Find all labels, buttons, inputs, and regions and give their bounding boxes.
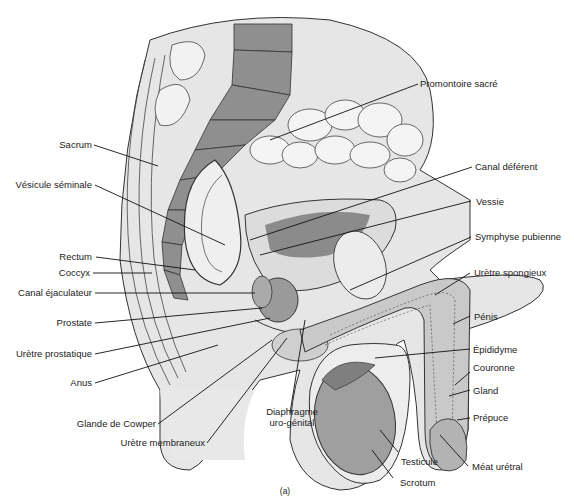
label-uretre-prostatique: Urètre prostatique	[16, 348, 92, 359]
label-sacrum: Sacrum	[59, 139, 92, 150]
anatomy-figure: Sacrum Vésicule séminale Rectum Coccyx C…	[0, 0, 574, 504]
label-diaphragme-uro-genital: Diaphragme uro-génital	[262, 406, 322, 428]
label-canal-ejaculateur: Canal éjaculateur	[18, 287, 92, 298]
label-diaphragme-line2: uro-génital	[262, 417, 322, 428]
label-diaphragme-line1: Diaphragme	[262, 406, 322, 417]
label-penis: Pénis	[474, 311, 498, 322]
label-coccyx: Coccyx	[59, 267, 90, 278]
label-meat-uretral: Méat urétral	[472, 461, 523, 472]
label-canal-deferent: Canal déférent	[475, 161, 537, 172]
label-vessie: Vessie	[476, 196, 504, 207]
label-promontoire-sacre: Promontoire sacré	[420, 78, 498, 89]
label-prostate: Prostate	[57, 317, 92, 328]
label-epididyme: Épididyme	[473, 344, 517, 355]
label-testicule: Testicule	[401, 456, 438, 467]
label-scrotum: Scrotum	[400, 477, 435, 488]
label-uretre-spongieux: Urètre spongieux	[474, 267, 546, 278]
label-uretre-membraneux: Urètre membraneux	[121, 437, 205, 448]
label-rectum: Rectum	[59, 251, 92, 262]
figure-caption: (a)	[270, 486, 300, 497]
label-anus: Anus	[70, 377, 92, 388]
label-gland: Gland	[473, 385, 498, 396]
label-vesicule-seminale: Vésicule séminale	[15, 179, 92, 190]
label-prepuce: Prépuce	[473, 412, 508, 423]
label-couronne: Couronne	[473, 362, 515, 373]
label-symphyse-pubienne: Symphyse pubienne	[475, 231, 561, 242]
label-glande-de-cowper: Glande de Cowper	[77, 418, 156, 429]
